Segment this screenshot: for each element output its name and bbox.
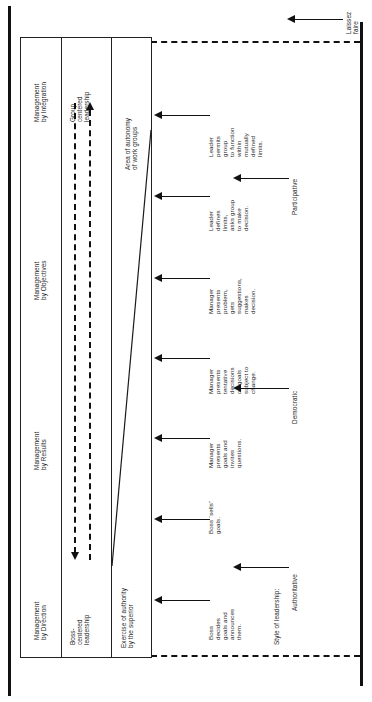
column-divider-1 — [61, 37, 62, 658]
style-arrow-participative — [233, 174, 291, 182]
dashed-arrow-up-head — [86, 102, 94, 110]
callout-arrowhead-4 — [154, 354, 162, 362]
dashed-arrow-down-head — [71, 552, 79, 560]
behaviour-label-2: Boss “sells” goals. — [208, 501, 222, 534]
diagram-canvas: Management by Direction Management by Re… — [0, 0, 372, 702]
callout-arrow-7 — [154, 111, 212, 119]
style-arrow-authoritative — [233, 563, 291, 571]
behaviour-label-3: Manager presents goals and invites quest… — [208, 439, 243, 468]
management-style-by-objectives: Management by Objectives — [33, 260, 47, 300]
boundary-dashed-top — [151, 41, 360, 43]
boundary-dashed-bottom — [151, 655, 360, 657]
callout-arrowhead-7 — [154, 111, 162, 119]
style-arrowhead-authoritative — [233, 563, 241, 571]
callout-arrow-6 — [154, 192, 212, 200]
style-arrow-laissez-faire — [287, 15, 345, 23]
behaviour-label-7: Leader permits group to function within … — [208, 127, 264, 157]
band-label-boss-centered: Boss- centered leadership — [69, 615, 91, 646]
style-shaft-democratic — [241, 388, 289, 389]
style-axis-caption: Style of leadership: — [273, 589, 280, 645]
style-shaft-laissez-faire — [295, 19, 343, 20]
callout-arrow-3 — [154, 434, 212, 442]
callout-arrow-5 — [154, 274, 212, 282]
callout-arrowhead-3 — [154, 434, 162, 442]
style-arrowhead-participative — [233, 174, 241, 182]
management-style-by-results: Management by Results — [33, 432, 47, 470]
page-rule-right — [360, 22, 363, 686]
callout-arrowhead-5 — [154, 274, 162, 282]
band-label-exercise-of-authority: Exercise of authority by the superior — [120, 588, 134, 648]
callout-arrow-2 — [154, 515, 212, 523]
callout-shaft-7 — [162, 115, 210, 116]
behaviour-label-6: Leader defines limits, asks group to mak… — [208, 200, 250, 231]
callout-arrow-4 — [154, 354, 212, 362]
style-label-authoritative: Authoritative — [291, 574, 298, 611]
callout-shaft-5 — [162, 278, 210, 279]
behaviour-label-5: Manager presents problem, gets suggestio… — [208, 278, 257, 314]
style-label-participative: Participative — [291, 179, 298, 215]
dashed-arrow-down-shaft — [74, 103, 76, 553]
callout-shaft-2 — [162, 519, 210, 520]
style-shaft-authoritative — [241, 567, 289, 568]
style-label-laissez-faire: Laissez faire — [345, 12, 359, 34]
callout-arrowhead-6 — [154, 192, 162, 200]
management-style-by-integration: Management by Integration — [33, 82, 47, 122]
style-arrowhead-laissez-faire — [287, 15, 295, 23]
callout-arrowhead-1 — [154, 596, 162, 604]
management-style-by-direction: Management by Direction — [33, 602, 47, 640]
callout-arrowhead-2 — [154, 515, 162, 523]
callout-shaft-6 — [162, 196, 210, 197]
column-divider-2 — [111, 37, 112, 658]
style-arrowhead-democratic — [233, 384, 241, 392]
behaviour-label-1: Boss decides goals and announces them. — [208, 609, 243, 640]
style-shaft-participative — [241, 178, 289, 179]
band-label-area-of-autonomy: Area of autonomy of work groups — [124, 118, 138, 170]
style-label-democratic: Democratic — [291, 391, 298, 424]
callout-shaft-4 — [162, 358, 210, 359]
page-rule-left — [8, 6, 11, 696]
callout-shaft-1 — [162, 600, 210, 601]
style-arrow-democratic — [233, 384, 291, 392]
callout-shaft-3 — [162, 438, 210, 439]
dashed-arrow-up-shaft — [89, 110, 91, 560]
callout-arrow-1 — [154, 596, 212, 604]
